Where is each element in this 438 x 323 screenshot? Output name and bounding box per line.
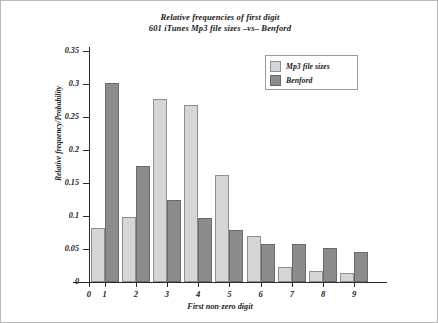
y-tick-label: 0.1 — [37, 211, 79, 220]
y-axis-label: Relative frequency/Probability — [54, 59, 63, 209]
x-tick-mark — [105, 282, 106, 287]
x-tick-mark — [89, 282, 90, 287]
x-tick-mark — [136, 282, 137, 287]
bar-mp3-file-sizes-digit-3 — [153, 99, 167, 282]
chart-title-line1: Relative frequencies of first digit — [1, 12, 438, 23]
legend-swatch-icon-mp3 — [270, 61, 281, 72]
chart-legend: Mp3 file sizes Benford — [265, 55, 358, 90]
x-tick-label: 8 — [313, 289, 333, 299]
x-tick-mark — [261, 282, 262, 287]
bar-mp3-file-sizes-digit-9 — [340, 273, 354, 282]
bar-benford-digit-4 — [198, 218, 212, 282]
x-tick-mark — [292, 282, 293, 287]
x-tick-mark — [354, 282, 355, 287]
x-tick-label: 2 — [126, 289, 146, 299]
bar-benford-digit-5 — [229, 230, 243, 282]
y-tick-label: 0.05 — [37, 244, 79, 253]
legend-label-benford: Benford — [286, 76, 312, 85]
y-tick-label-wrap: 0 — [35, 282, 79, 283]
bar-benford-digit-2 — [136, 166, 150, 282]
chart-figure: Relative frequencies of first digit 601 … — [0, 0, 438, 323]
bar-benford-digit-7 — [292, 244, 306, 282]
chart-title-line2: 601 iTunes Mp3 file sizes –vs– Benford — [1, 23, 438, 34]
x-tick-label: 1 — [95, 289, 115, 299]
x-tick-mark — [323, 282, 324, 287]
x-tick-label: 4 — [188, 289, 208, 299]
x-axis-label: First non-zero digit — [1, 302, 438, 311]
x-tick-mark — [167, 282, 168, 287]
bar-mp3-file-sizes-digit-7 — [278, 267, 292, 282]
y-tick-label: 0 — [37, 277, 79, 286]
bar-mp3-file-sizes-digit-1 — [91, 228, 105, 282]
y-tick-label-wrap: 0.1 — [35, 216, 79, 217]
bar-benford-digit-8 — [323, 248, 337, 282]
bar-mp3-file-sizes-digit-5 — [215, 175, 229, 282]
legend-item-benford: Benford — [270, 73, 353, 87]
y-tick-label: 0.35 — [37, 46, 79, 55]
x-tick-label: 6 — [251, 289, 271, 299]
bar-benford-digit-6 — [261, 244, 275, 282]
legend-swatch-icon-benford — [270, 75, 281, 86]
y-tick-label-wrap: 0.05 — [35, 249, 79, 250]
legend-label-mp3: Mp3 file sizes — [286, 62, 330, 71]
bar-benford-digit-3 — [167, 200, 181, 283]
x-tick-mark — [198, 282, 199, 287]
x-tick-label: 3 — [157, 289, 177, 299]
legend-item-mp3-file-sizes: Mp3 file sizes — [270, 59, 353, 73]
bar-benford-digit-1 — [105, 83, 119, 282]
bar-mp3-file-sizes-digit-8 — [309, 271, 323, 282]
x-tick-label: 5 — [219, 289, 239, 299]
chart-title: Relative frequencies of first digit 601 … — [1, 12, 438, 33]
x-tick-label: 9 — [344, 289, 364, 299]
y-tick-label-wrap: 0.35 — [35, 51, 79, 52]
bar-benford-digit-9 — [354, 252, 368, 282]
x-tick-mark — [229, 282, 230, 287]
bar-mp3-file-sizes-digit-2 — [122, 217, 136, 282]
x-tick-label: 7 — [282, 289, 302, 299]
bar-mp3-file-sizes-digit-6 — [247, 236, 261, 282]
bar-mp3-file-sizes-digit-4 — [184, 105, 198, 282]
